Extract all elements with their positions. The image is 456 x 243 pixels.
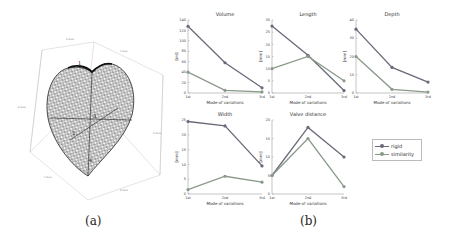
x-tick-label: 2nd — [222, 196, 229, 200]
chart-valve-distance: Valve distance05101520[mm]1st2nd3rdMode … — [258, 110, 348, 210]
axis-label: Y Axis — [120, 50, 128, 53]
series-line-rigid — [272, 26, 344, 90]
y-tick-label: 15 — [182, 148, 186, 152]
x-axis-label: Mode of variations — [289, 201, 326, 206]
chart-title: Valve distance — [290, 111, 326, 117]
y-tick-label: 60 — [182, 60, 186, 64]
legend: rigid similarity — [372, 139, 422, 161]
label-1: 1 — [78, 60, 81, 66]
data-point — [223, 124, 226, 127]
x-tick-label: 1st — [185, 196, 191, 200]
y-tick-label: 25 — [182, 118, 186, 122]
data-point — [223, 61, 226, 64]
data-point — [186, 120, 189, 123]
series-line-rigid — [188, 26, 262, 88]
y-tick-label: 80 — [182, 49, 186, 53]
y-tick-label: 30 — [350, 36, 354, 40]
axis-label: X Axis — [66, 38, 74, 41]
chart-title: Depth — [384, 11, 399, 18]
series-line-similarity — [272, 57, 344, 81]
data-point — [426, 90, 429, 93]
legend-label: similarity — [391, 151, 414, 157]
heart-mesh-panel: 1 2 3 4 X Axis Y Axis Z Axis X Axis Y Ax… — [0, 0, 175, 243]
series-line-similarity — [272, 139, 344, 187]
caption-b: (b) — [300, 214, 317, 228]
y-axis-label: [mm] — [258, 51, 263, 62]
data-point — [426, 80, 429, 83]
series-line-similarity — [188, 176, 262, 189]
chart-depth: Depth010203040[mm]1st2nd3rdMode of varia… — [342, 10, 432, 109]
y-tick-label: 20 — [266, 43, 270, 47]
chart-title: Volume — [216, 11, 235, 17]
heart-mesh-image: 1 2 3 4 X Axis Y Axis Z Axis X Axis Y Ax… — [0, 0, 175, 243]
y-tick-label: 40 — [350, 18, 354, 22]
x-tick-label: 1st — [269, 95, 275, 99]
axis-label: X Axis — [153, 132, 161, 135]
x-tick-label: 1st — [353, 95, 359, 99]
series-line-rigid — [272, 127, 344, 175]
y-tick-label: 15 — [266, 55, 270, 59]
data-point — [342, 185, 345, 188]
data-point — [270, 24, 273, 27]
legend-label: rigid — [391, 143, 402, 149]
data-point — [390, 66, 393, 69]
axis-label: Z Axis — [18, 106, 26, 109]
data-point — [306, 126, 309, 129]
x-tick-label: 2nd — [389, 95, 396, 99]
y-tick-label: 100 — [179, 39, 186, 43]
label-2: 2 — [72, 130, 75, 136]
chart-length: Length051015202530[mm]1st2nd3rdMode of v… — [258, 10, 348, 109]
label-3: 3 — [93, 113, 96, 119]
y-tick-label: 120 — [179, 29, 186, 33]
data-point — [270, 67, 273, 70]
x-axis-label: Mode of variations — [373, 100, 410, 105]
y-tick-label: 10 — [182, 163, 186, 167]
data-point — [342, 155, 345, 158]
y-tick-label: 20 — [182, 81, 186, 85]
data-point — [306, 137, 309, 140]
y-tick-label: 20 — [350, 55, 354, 59]
y-tick-label: 10 — [266, 67, 270, 71]
y-tick-label: 140 — [179, 18, 186, 22]
x-axis-label: Mode of variations — [206, 100, 243, 105]
y-axis-label: [ml] — [174, 52, 179, 61]
y-tick-label: 10 — [350, 73, 354, 77]
x-tick-label: 2nd — [222, 95, 229, 99]
label-4: 4 — [89, 157, 92, 163]
x-axis-label: Mode of variations — [289, 100, 326, 105]
data-point — [354, 28, 357, 31]
x-tick-label: 1st — [269, 196, 275, 200]
y-tick-label: 5 — [184, 177, 186, 181]
data-point — [186, 71, 189, 74]
axis-label: Y Axis — [44, 176, 52, 179]
y-tick-label: 10 — [266, 155, 270, 159]
caption-a: (a) — [85, 214, 102, 228]
series-line-rigid — [356, 29, 428, 82]
legend-swatch — [375, 150, 389, 158]
series-line-similarity — [356, 57, 428, 93]
data-point — [186, 188, 189, 191]
data-point — [186, 25, 189, 28]
data-point — [223, 89, 226, 92]
data-point — [354, 55, 357, 58]
x-tick-label: 3rd — [341, 196, 347, 200]
y-axis-label: [mm] — [174, 151, 179, 162]
legend-item-similarity: similarity — [375, 150, 414, 158]
series-line-rigid — [188, 121, 262, 165]
y-tick-label: 5 — [268, 79, 270, 83]
data-point — [306, 55, 309, 58]
data-point — [390, 88, 393, 91]
x-tick-label: 1st — [185, 95, 191, 99]
y-tick-label: 5 — [268, 174, 270, 178]
x-tick-label: 2nd — [305, 95, 312, 99]
chart-title: Length — [299, 11, 316, 18]
data-point — [270, 174, 273, 177]
y-tick-label: 30 — [266, 18, 270, 22]
chart-title: Width — [218, 111, 233, 117]
y-tick-label: 15 — [266, 137, 270, 141]
axis-label: Z Axis — [120, 189, 128, 192]
legend-item-rigid: rigid — [375, 142, 402, 150]
data-point — [223, 175, 226, 178]
y-axis-label: [mm] — [342, 51, 347, 62]
chart-volume: Volume020406080100120140[ml]1st2nd3rdMod… — [174, 10, 266, 109]
